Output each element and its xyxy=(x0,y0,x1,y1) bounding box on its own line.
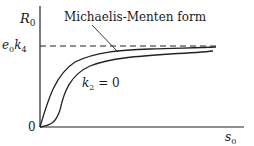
k2-zero-curve xyxy=(40,51,213,127)
enzyme-rate-diagram: R0 e0k4 Michaelis-Menten form k2 = 0 0 s… xyxy=(0,0,254,146)
x-axis-label: s0 xyxy=(225,130,236,146)
y-axis-label: R0 xyxy=(19,11,36,28)
michaelis-menten-curve xyxy=(40,47,216,127)
michaelis-menten-label: Michaelis-Menten form xyxy=(64,10,207,24)
mm-label-leader xyxy=(92,25,118,52)
k2-zero-label: k2 = 0 xyxy=(82,76,120,92)
origin-label: 0 xyxy=(28,120,36,134)
asymptote-label: e0k4 xyxy=(2,38,27,54)
